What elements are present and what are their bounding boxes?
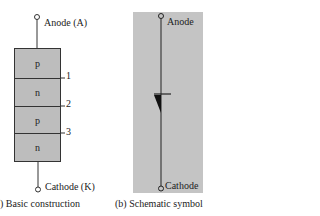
caption-b: (b) Schematic symbol: [115, 198, 203, 209]
symbol-cathode-label: Cathode: [165, 180, 198, 191]
symbol-anode-label: Anode: [167, 16, 194, 27]
half-triangle-icon: [154, 95, 161, 113]
cathode-terminal-icon: [159, 186, 164, 191]
anode-terminal-icon: [159, 14, 164, 19]
